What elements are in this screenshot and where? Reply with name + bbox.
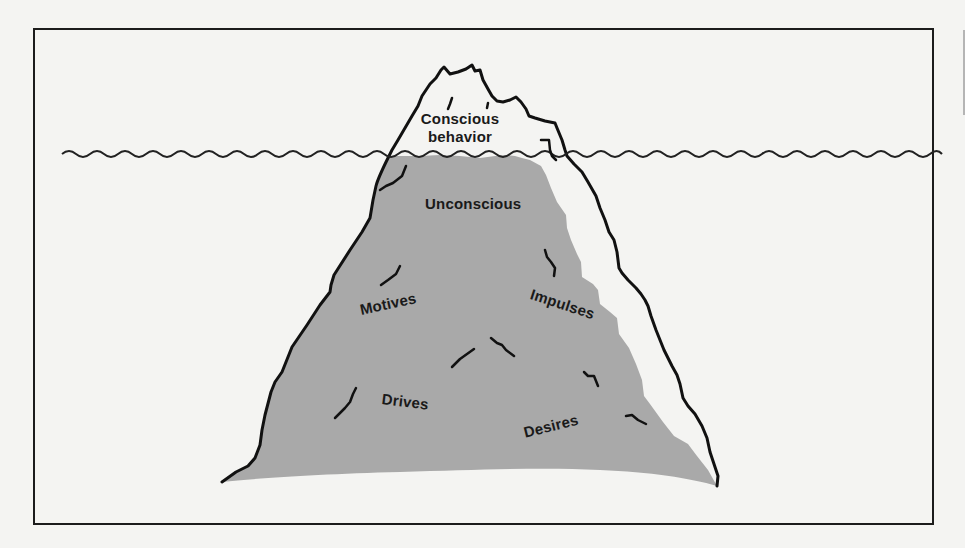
label-conscious-line1: Conscious xyxy=(418,110,502,128)
crack-mark xyxy=(541,140,556,160)
crack-mark xyxy=(487,103,488,108)
crack-mark xyxy=(448,98,452,109)
label-unconscious: Unconscious xyxy=(425,196,521,211)
iceberg-figure: Conscious behavior Unconscious Motives I… xyxy=(0,0,965,548)
label-conscious-line2: behavior xyxy=(418,128,502,146)
iceberg-diagram-graphic xyxy=(0,0,965,548)
label-conscious-behavior: Conscious behavior xyxy=(418,110,502,146)
water-line xyxy=(62,151,942,157)
